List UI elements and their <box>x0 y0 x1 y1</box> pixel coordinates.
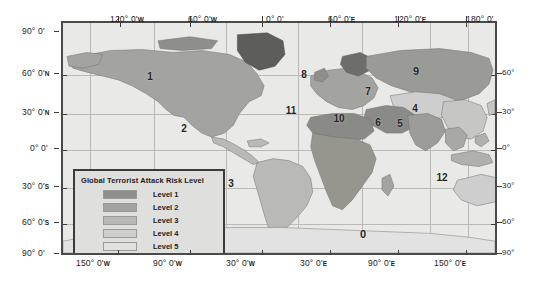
axis-label-right-60n: 60° <box>502 68 515 77</box>
axis-label-left-30n: 30° 0'N <box>22 107 50 117</box>
legend-label-level-3: Level 3 <box>153 216 178 225</box>
axis-label-top-60e: 60° 0'E <box>328 14 355 24</box>
land-madagascar <box>382 174 394 196</box>
axis-label-top-180: 180° 0' <box>466 14 494 24</box>
legend-swatch-level-1 <box>103 190 137 199</box>
land-south-asia <box>408 113 446 150</box>
axis-label-left-90: 90° 0' <box>22 26 45 36</box>
axis-label-bottom-150e: 150° 0'E <box>434 258 466 268</box>
legend-title: Global Terrorist Attack Risk Level <box>81 176 217 185</box>
land-indonesia <box>451 151 493 167</box>
axis-label-top-120w: 120° 0'W <box>110 14 144 24</box>
map-panel[interactable]: 1 2 3 4 5 6 7 8 9 10 11 12 0 Global Terr… <box>61 21 497 255</box>
legend-item-level-1[interactable]: Level 1 <box>81 189 217 200</box>
axis-label-left-60n: 60° 0'N <box>22 68 50 78</box>
axis-label-bottom-90w: 90° 0'W <box>153 258 182 268</box>
axis-label-top-0: 0° 0' <box>266 14 284 24</box>
legend-label-level-2: Level 2 <box>153 203 178 212</box>
legend-swatch-level-5 <box>103 242 137 251</box>
legend-swatch-level-2 <box>103 203 137 212</box>
axis-label-right-90s: 90° <box>502 248 515 257</box>
land-australia <box>453 174 495 205</box>
axis-label-right-30n: 30° <box>502 107 515 116</box>
land-south-america <box>253 159 312 234</box>
axis-label-left-60s: 60° 0'S <box>22 217 49 227</box>
land-north-america <box>71 50 264 137</box>
axis-label-bottom-150w: 150° 0'W <box>76 258 110 268</box>
legend-item-level-2[interactable]: Level 2 <box>81 202 217 213</box>
map-legend[interactable]: Global Terrorist Attack Risk Level Level… <box>73 169 225 255</box>
legend-item-level-4[interactable]: Level 4 <box>81 228 217 239</box>
legend-label-level-5: Level 5 <box>153 242 178 251</box>
land-japan <box>487 100 495 116</box>
legend-label-level-4: Level 4 <box>153 229 178 238</box>
map-figure: 1 2 3 4 5 6 7 8 9 10 11 12 0 Global Terr… <box>0 0 538 281</box>
axis-label-right-0: 0° <box>502 143 510 152</box>
legend-label-level-1: Level 1 <box>153 190 178 199</box>
axis-label-right-60s: 60° <box>502 217 515 226</box>
axis-label-left-30s: 30° 0'S <box>22 181 49 191</box>
legend-swatch-level-4 <box>103 229 137 238</box>
axis-label-right-30s: 30° <box>502 181 515 190</box>
axis-label-bottom-30e: 30° 0'E <box>300 258 327 268</box>
legend-item-level-3[interactable]: Level 3 <box>81 215 217 226</box>
land-arctic-islands <box>158 37 217 51</box>
legend-swatch-level-3 <box>103 216 137 225</box>
axis-label-top-60w: 60° 0'W <box>188 14 217 24</box>
legend-item-level-5[interactable]: Level 5 <box>81 241 217 252</box>
land-subsaharan-africa <box>311 133 376 210</box>
land-caribbean <box>247 139 269 147</box>
axis-label-bottom-90e: 90° 0'E <box>368 258 395 268</box>
axis-label-left-0: 0° 0' <box>30 143 48 153</box>
axis-label-left-90s: 90° 0' <box>22 248 45 258</box>
axis-label-bottom-30w: 30° 0'W <box>226 258 255 268</box>
